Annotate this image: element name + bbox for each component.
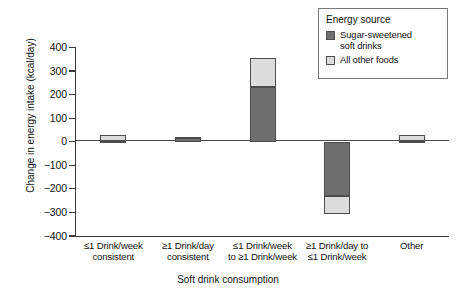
category-label-line: consistent (72, 251, 155, 262)
y-tick-label-wrap: 300 (22, 66, 67, 77)
bar-segment-all-other-foods (324, 196, 350, 214)
category-label-line: Other (370, 240, 453, 251)
y-tick-mark (69, 212, 75, 213)
y-tick-label-wrap: −100 (22, 160, 67, 171)
y-tick-label: 300 (29, 66, 67, 77)
bar-segment-sugar-sweetened (399, 141, 425, 143)
y-tick-label: 200 (29, 89, 67, 100)
y-tick-mark (69, 94, 75, 95)
y-tick-label-wrap: 100 (22, 113, 67, 124)
legend-label: Sugar-sweetenedsoft drinks (340, 30, 412, 51)
category-label: Other (370, 240, 453, 251)
y-tick-label: 400 (29, 42, 67, 53)
y-tick-label-wrap: 200 (22, 89, 67, 100)
legend-label-line: soft drinks (340, 41, 412, 52)
y-axis-line (75, 47, 76, 237)
y-tick-label: −300 (29, 207, 67, 218)
y-tick-mark (69, 118, 75, 119)
y-tick-label: 100 (29, 113, 67, 124)
legend-title: Energy source (326, 14, 447, 25)
category-label: ≥1 Drink/day to≤1 Drink/week (296, 240, 379, 263)
category-label-line: ≤1 Drink/week (72, 240, 155, 251)
y-tick-mark (69, 70, 75, 71)
legend-swatch (326, 56, 335, 65)
y-tick-label: −100 (29, 160, 67, 171)
bar-segment-all-other-foods (250, 58, 276, 87)
y-tick-mark (69, 47, 75, 48)
category-label-line: ≤1 Drink/week (296, 251, 379, 262)
legend-label: All other foods (340, 55, 398, 66)
category-label-line: ≤1 Drink/week (221, 240, 304, 251)
category-label: ≤1 Drink/weekconsistent (72, 240, 155, 263)
legend-entries: Sugar-sweetenedsoft drinksAll other food… (326, 30, 447, 66)
y-tick-mark (69, 141, 75, 142)
bar-segment-sugar-sweetened (250, 87, 276, 142)
legend-entry: All other foods (326, 55, 447, 66)
y-tick-label: −400 (29, 231, 67, 242)
category-label: ≤1 Drink/weekto ≥1 Drink/week (221, 240, 304, 263)
category-label-line: ≥1 Drink/day (147, 240, 230, 251)
legend-label-line: Sugar-sweetened (340, 30, 412, 41)
y-tick-mark (69, 165, 75, 166)
y-tick-label: 0 (29, 136, 67, 147)
category-label-line: ≥1 Drink/day to (296, 240, 379, 251)
y-tick-mark (69, 235, 75, 236)
y-tick-label-wrap: −300 (22, 207, 67, 218)
legend-swatch (326, 31, 335, 40)
bar-segment-sugar-sweetened (324, 142, 350, 196)
category-label-line: consistent (147, 251, 230, 262)
bar-chart: Change in energy intake (kcal/day) 40030… (0, 0, 456, 296)
x-axis-title: Soft drink consumption (0, 274, 456, 285)
legend-label-line: All other foods (340, 55, 398, 66)
y-tick-label-wrap: −400 (22, 231, 67, 242)
y-tick-label-wrap: 400 (22, 42, 67, 53)
legend-entry: Sugar-sweetenedsoft drinks (326, 30, 447, 51)
category-label: ≥1 Drink/dayconsistent (147, 240, 230, 263)
category-label-line: to ≥1 Drink/week (221, 251, 304, 262)
bar-segment-sugar-sweetened (100, 141, 126, 143)
y-tick-mark (69, 188, 75, 189)
y-tick-label-wrap: 0 (22, 136, 67, 147)
legend: Energy source Sugar-sweetenedsoft drinks… (318, 8, 448, 79)
y-tick-label: −200 (29, 183, 67, 194)
y-tick-label-wrap: −200 (22, 183, 67, 194)
bar-segment-sugar-sweetened (175, 138, 201, 142)
